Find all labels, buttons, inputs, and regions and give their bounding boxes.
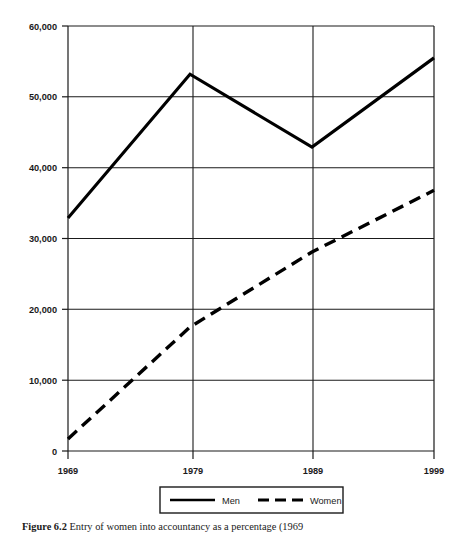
x-tick-label: 1999 [424, 466, 444, 476]
legend-label-men: Men [222, 496, 240, 506]
horizontal-gridlines [68, 26, 434, 451]
figure-caption-text: Entry of women into accountancy as a per… [69, 521, 303, 532]
chart-legend: Men Women [160, 487, 343, 513]
y-tick-label: 60,000 [29, 22, 57, 32]
x-axis-tick-labels: 1969 1979 1989 1999 [58, 466, 444, 476]
y-axis-ticks [62, 26, 68, 451]
figure-page: 60,000 50,000 40,000 30,000 20,000 10,00… [0, 0, 460, 537]
series-line-women [68, 190, 434, 439]
x-tick-label: 1969 [58, 466, 78, 476]
y-tick-label: 40,000 [29, 163, 57, 173]
x-axis-ticks [68, 451, 434, 459]
x-tick-label: 1989 [303, 466, 323, 476]
y-tick-label: 0 [52, 447, 57, 457]
legend-label-women: Women [310, 496, 342, 506]
series-line-men [68, 58, 434, 218]
y-tick-label: 10,000 [29, 376, 57, 386]
line-chart-figure: 60,000 50,000 40,000 30,000 20,000 10,00… [0, 0, 460, 537]
figure-caption-label: Figure 6.2 [22, 521, 67, 532]
y-tick-label: 30,000 [29, 234, 57, 244]
y-axis-tick-labels: 60,000 50,000 40,000 30,000 20,000 10,00… [29, 22, 57, 457]
x-tick-label: 1979 [183, 466, 203, 476]
chart-canvas: 60,000 50,000 40,000 30,000 20,000 10,00… [0, 0, 460, 537]
y-tick-label: 50,000 [29, 92, 57, 102]
figure-caption: Figure 6.2 Entry of women into accountan… [22, 521, 446, 533]
y-tick-label: 20,000 [29, 305, 57, 315]
